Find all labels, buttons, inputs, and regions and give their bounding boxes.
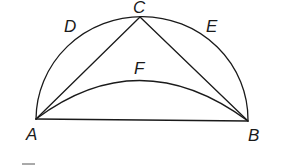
label-b: B [248,126,259,145]
label-a: A [25,125,37,144]
chord-ac [36,17,140,119]
label-f: F [134,59,146,78]
label-d: D [64,17,76,36]
label-e: E [206,17,218,36]
label-c: C [133,0,146,17]
chord-cb [140,17,248,121]
geometry-diagram: C D E F A B [0,0,284,165]
arc-afb [36,80,248,121]
diameter-ab [36,119,248,121]
